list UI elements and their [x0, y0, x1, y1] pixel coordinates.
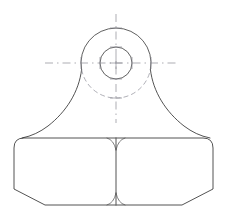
bottom-cusp-left-fillet — [107, 193, 116, 205]
top-cusp-right-fillet — [116, 138, 125, 150]
base-block-left-outline — [14, 138, 116, 205]
bottom-cusp-right-fillet — [116, 193, 125, 205]
technical-drawing-canvas — [0, 0, 226, 214]
top-cusp-left-fillet — [107, 138, 116, 150]
left-flank-curve — [22, 70, 82, 139]
base-block-right-outline — [116, 138, 213, 205]
right-flank-curve — [150, 70, 210, 139]
drawing-svg — [0, 0, 226, 214]
